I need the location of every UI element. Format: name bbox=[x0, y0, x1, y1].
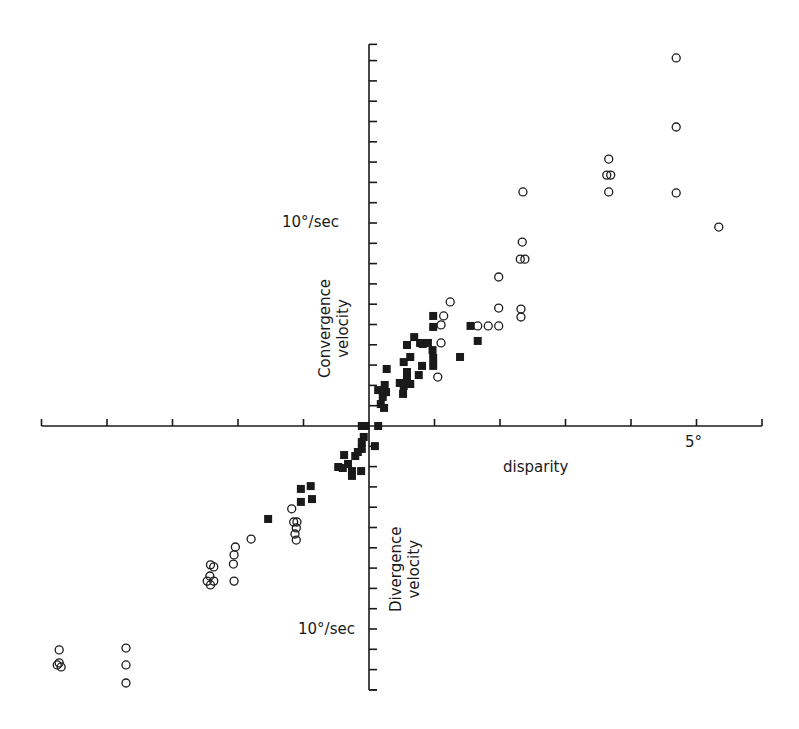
filled-square-marker bbox=[429, 323, 437, 331]
filled-square-marker bbox=[340, 451, 348, 459]
convergence-label-line2: velocity bbox=[334, 279, 352, 378]
y-axis-label-divergence: Divergence velocity bbox=[387, 527, 423, 612]
open-circle-marker bbox=[605, 155, 613, 163]
y-tick-label-positive: 10°/sec bbox=[282, 213, 339, 231]
filled-square-marker bbox=[308, 495, 316, 503]
open-circle-marker bbox=[437, 339, 445, 347]
filled-square-marker bbox=[297, 498, 305, 506]
open-circle-marker bbox=[440, 312, 448, 320]
filled-square-marker bbox=[297, 485, 305, 493]
open-circle-marker bbox=[715, 223, 723, 231]
scatter-plot bbox=[0, 0, 799, 729]
open-circle-marker bbox=[672, 54, 680, 62]
filled-square-marker bbox=[379, 393, 387, 401]
open-circle-marker bbox=[518, 238, 526, 246]
filled-square-marker bbox=[399, 390, 407, 398]
filled-square-marker bbox=[354, 448, 362, 456]
divergence-label-line1: Divergence bbox=[387, 527, 405, 612]
filled-square-marker bbox=[357, 467, 365, 475]
open-circle-marker bbox=[495, 322, 503, 330]
filled-square-marker bbox=[400, 382, 408, 390]
filled-square-marker bbox=[374, 422, 382, 430]
filled-square-marker bbox=[264, 515, 272, 523]
convergence-label-line1: Convergence bbox=[316, 279, 334, 378]
filled-square-marker bbox=[307, 482, 315, 490]
open-circle-marker bbox=[230, 577, 238, 585]
filled-square-marker bbox=[383, 365, 391, 373]
open-circle-marker bbox=[495, 273, 503, 281]
open-circle-marker bbox=[605, 188, 613, 196]
open-circle-marker bbox=[517, 313, 525, 321]
open-circle-marker bbox=[672, 189, 680, 197]
open-circle-marker bbox=[229, 560, 237, 568]
y-tick-label-negative: 10°/sec bbox=[298, 620, 355, 638]
filled-square-marker bbox=[429, 362, 437, 370]
open-circle-marker bbox=[474, 322, 482, 330]
filled-square-marker bbox=[424, 339, 432, 347]
filled-square-marker bbox=[380, 404, 388, 412]
divergence-label-line2: velocity bbox=[405, 527, 423, 612]
filled-square-marker bbox=[429, 312, 437, 320]
open-circle-marker bbox=[519, 188, 527, 196]
filled-square-marker bbox=[371, 442, 379, 450]
y-axis-label-convergence: Convergence velocity bbox=[316, 279, 352, 378]
filled-square-marker bbox=[456, 353, 464, 361]
open-circle-marker bbox=[122, 679, 130, 687]
open-circle-marker bbox=[122, 661, 130, 669]
open-circle-marker bbox=[55, 646, 63, 654]
filled-square-marker bbox=[474, 337, 482, 345]
filled-square-marker bbox=[403, 341, 411, 349]
filled-square-marker bbox=[362, 422, 370, 430]
filled-square-marker bbox=[415, 371, 423, 379]
open-circle-marker bbox=[672, 123, 680, 131]
open-circle-marker bbox=[484, 322, 492, 330]
filled-square-marker bbox=[348, 472, 356, 480]
filled-square-marker bbox=[381, 381, 389, 389]
open-circle-marker bbox=[517, 305, 525, 313]
filled-square-marker bbox=[358, 438, 366, 446]
open-circle-marker bbox=[231, 543, 239, 551]
filled-square-marker bbox=[429, 346, 437, 354]
x-axis-label: disparity bbox=[503, 458, 568, 476]
filled-square-marker bbox=[418, 362, 426, 370]
x-tick-label-5: 5° bbox=[685, 433, 702, 451]
open-circle-marker bbox=[446, 298, 454, 306]
open-circle-marker bbox=[230, 551, 238, 559]
filled-square-marker bbox=[344, 460, 352, 468]
open-circle-marker bbox=[437, 321, 445, 329]
open-circle-marker bbox=[122, 644, 130, 652]
open-circle-marker bbox=[247, 535, 255, 543]
open-circle-marker bbox=[288, 505, 296, 513]
filled-square-marker bbox=[429, 354, 437, 362]
filled-square-marker bbox=[400, 358, 408, 366]
open-circle-marker bbox=[434, 373, 442, 381]
open-circle-marker bbox=[495, 304, 503, 312]
